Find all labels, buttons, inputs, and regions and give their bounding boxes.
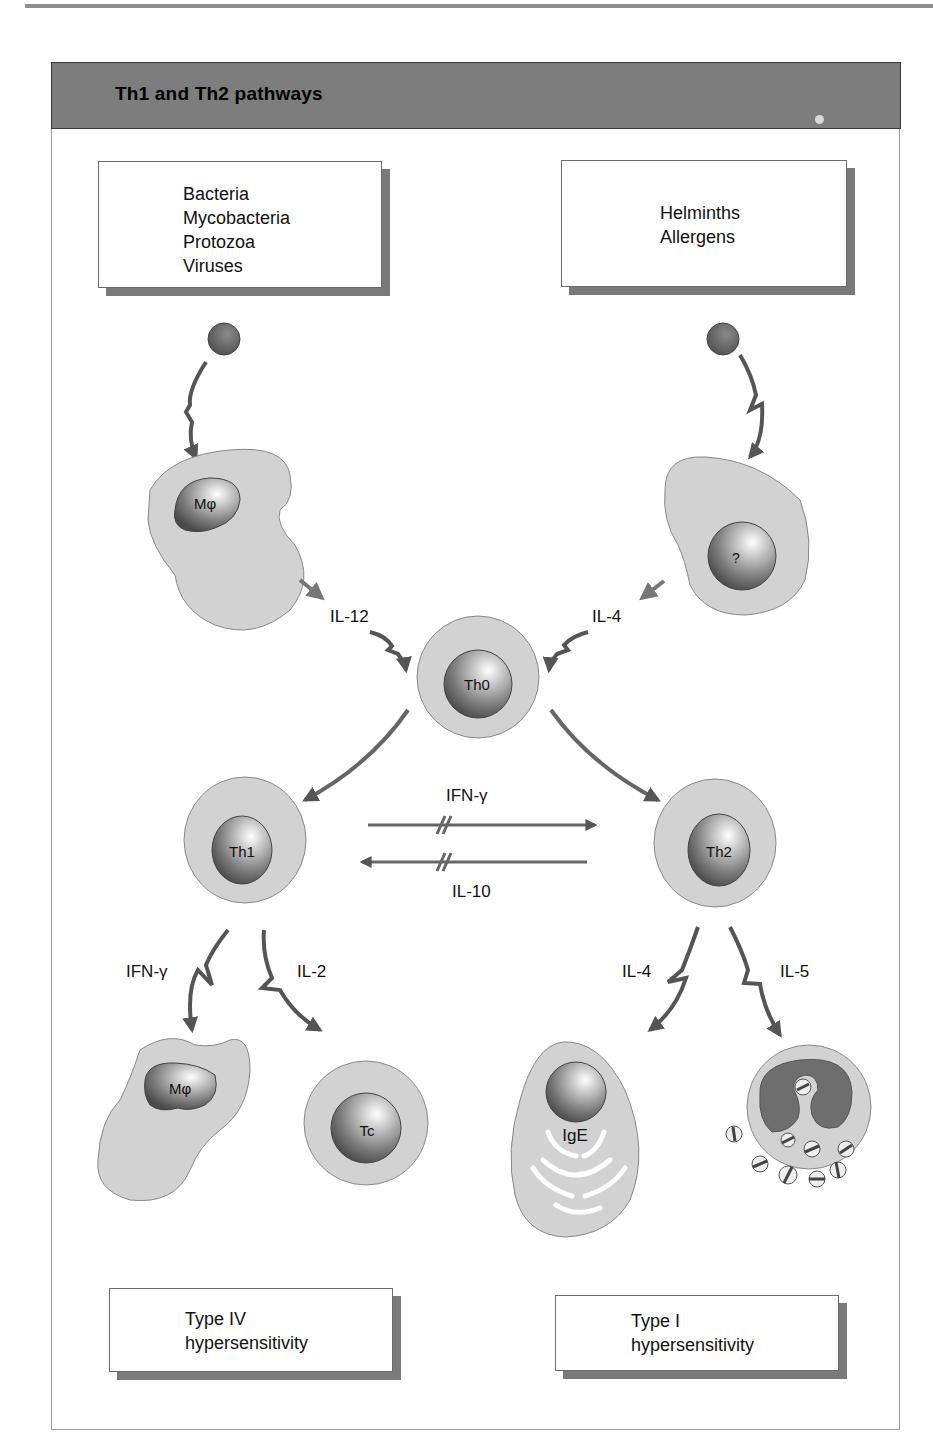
cytokine-il5: IL-5 bbox=[780, 962, 809, 982]
type-i-subtitle: hypersensitivity bbox=[631, 1333, 754, 1357]
label-unknown-cell: ? bbox=[732, 550, 740, 566]
cytokine-il12: IL-12 bbox=[330, 607, 369, 627]
signal-arrow-right-top bbox=[740, 355, 762, 457]
arrow-mac-to-il12 bbox=[300, 580, 322, 598]
pathogen-mycobacteria: Mycobacteria bbox=[183, 206, 290, 230]
antigen-left bbox=[208, 323, 240, 355]
signal-arrow-left-top bbox=[186, 362, 206, 458]
label-ige: IgE bbox=[562, 1126, 588, 1146]
b-cell-nucleus bbox=[546, 1062, 606, 1122]
label-th0: Th0 bbox=[464, 676, 490, 693]
pathogen-protozoa: Protozoa bbox=[183, 230, 290, 254]
cytokine-ifn-gamma-th1: IFN-γ bbox=[126, 962, 168, 982]
trigger-allergens: Allergens bbox=[660, 225, 740, 249]
type-iv-label: Type IV bbox=[185, 1307, 308, 1331]
cytokine-ifn-gamma-cross: IFN-γ bbox=[446, 786, 488, 806]
trigger-helminths: Helminths bbox=[660, 201, 740, 225]
label-tc: Tc bbox=[360, 1122, 375, 1139]
arrow-th2-il5 bbox=[730, 927, 780, 1035]
box-th2-triggers: Helminths Allergens bbox=[561, 160, 847, 287]
cytokine-il4-top: IL-4 bbox=[592, 607, 621, 627]
antigen-right bbox=[707, 323, 739, 355]
box-type-iv-hypersensitivity: Type IV hypersensitivity bbox=[109, 1288, 393, 1372]
pathogen-viruses: Viruses bbox=[183, 254, 290, 278]
cytokine-il10-cross: IL-10 bbox=[452, 882, 491, 902]
arrow-th0-to-th2 bbox=[551, 710, 658, 800]
arrow-il4-to-th0 bbox=[549, 632, 588, 670]
cytokine-il4-th2: IL-4 bbox=[622, 962, 651, 982]
type-i-label: Type I bbox=[631, 1309, 754, 1333]
label-macrophage-top: Mφ bbox=[194, 495, 216, 512]
cytokine-il2: IL-2 bbox=[297, 962, 326, 982]
pathogen-bacteria: Bacteria bbox=[183, 182, 290, 206]
box-type-i-hypersensitivity: Type I hypersensitivity bbox=[555, 1295, 839, 1371]
label-th2: Th2 bbox=[706, 843, 732, 860]
arrow-unknown-to-il4 bbox=[642, 581, 664, 598]
arrow-th0-to-th1 bbox=[305, 710, 408, 800]
box-th1-pathogens: Bacteria Mycobacteria Protozoa Viruses bbox=[98, 161, 382, 288]
unknown-cell-nucleus bbox=[708, 522, 776, 590]
macrophage-top-cell bbox=[148, 449, 304, 630]
arrow-th2-il4 bbox=[650, 927, 698, 1030]
arrow-il12-to-th0 bbox=[370, 632, 406, 670]
label-macrophage-bottom: Mφ bbox=[169, 1080, 191, 1097]
label-th1: Th1 bbox=[229, 843, 255, 860]
arrow-th1-ifn bbox=[190, 930, 228, 1030]
type-iv-subtitle: hypersensitivity bbox=[185, 1331, 308, 1355]
